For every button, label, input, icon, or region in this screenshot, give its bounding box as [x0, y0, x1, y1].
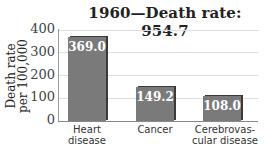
x-axis — [58, 121, 258, 122]
bar-cerebrovascular-disease: 108.0 — [203, 96, 241, 121]
category-label-cancer: Cancer — [130, 124, 180, 135]
bar-value-label: 108.0 — [203, 99, 241, 113]
tick-100: 100 — [21, 89, 55, 104]
tick-200: 200 — [21, 67, 55, 82]
tick-0: 0 — [21, 112, 55, 127]
tick-300: 300 — [21, 44, 55, 59]
bar-value-label: 369.0 — [68, 40, 106, 54]
category-label-heart-disease: Heart disease — [62, 124, 112, 146]
tick-400: 400 — [21, 21, 55, 36]
bar-cancer: 149.2 — [136, 87, 174, 121]
bar-heart-disease: 369.0 — [68, 37, 106, 121]
gridline-400 — [58, 30, 258, 31]
chart-title: 1960—Death rate: 954.7 — [70, 4, 260, 40]
y-axis — [58, 29, 59, 122]
bar-value-label: 149.2 — [136, 90, 174, 104]
category-label-cerebrovascular: Cerebrovas- cular disease — [190, 124, 260, 146]
